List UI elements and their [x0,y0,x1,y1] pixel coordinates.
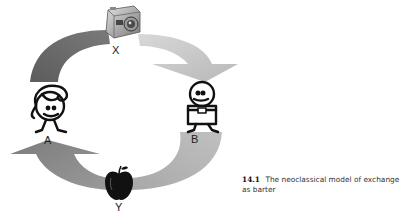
boy-figure-icon [188,82,218,132]
node-label-a: A [44,134,51,146]
girl-figure-icon [32,86,67,132]
figure-caption: 14.1 The neoclassical model of exchange … [242,175,402,195]
apple-icon [105,166,133,200]
arrow-x-to-b [138,34,238,82]
figure-caption-text: The neoclassical model of exchange as ba… [242,175,399,194]
node-label-y: Y [115,201,122,213]
arrow-b-to-y [130,132,222,190]
arrow-y-to-a [10,140,110,190]
camera-icon [106,6,140,38]
node-label-b: B [191,133,198,145]
node-label-x: X [112,44,119,56]
figure-number: 14.1 [242,175,260,184]
arrow-a-to-x [30,30,110,82]
